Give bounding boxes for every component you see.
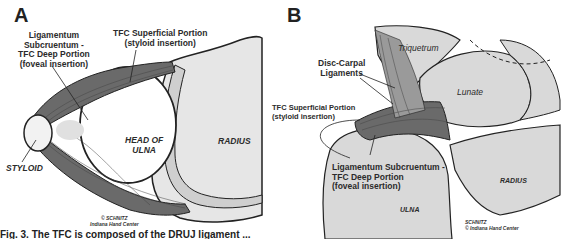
label-deep-portion-b: Ligamentum Subcruentum - TFC Deep Portio… [332,163,445,192]
label-lunate: Lunate [457,88,483,98]
credit-line: Indiana Hand Center [90,221,139,227]
label-line: (foveal insertion) [18,60,90,70]
panel-letter-b: B [287,4,301,27]
label-line: (styloid insertion) [272,113,355,122]
label-superficial-portion-b: TFC Superficial Portion (styloid inserti… [272,104,355,121]
label-superficial-portion-a: TFC Superficial Portion (styloid inserti… [113,29,207,48]
styloid-process [24,115,52,151]
credit-b: SCHNITZ © Indiana Hand Center [465,219,519,231]
label-radius-a: RADIUS [218,137,251,147]
label-line: ULNA [125,146,163,156]
label-disc-carpal: Disc-Carpal Ligaments [318,59,365,78]
label-radius-b: RADIUS [500,176,527,186]
label-line: (styloid insertion) [113,39,207,49]
label-deep-portion-a: Ligamentum Subcruentum - TFC Deep Portio… [18,31,90,69]
panel-letter-a: A [14,4,28,27]
label-ulna-b: ULNA [400,205,419,215]
radius-bone-b [450,125,560,215]
credit-line: © Indiana Hand Center [465,225,519,231]
label-styloid: STYLOID [6,164,43,174]
foveal-region [56,120,84,140]
label-head-of-ulna: HEAD OF ULNA [125,136,163,155]
credit-a: © SCHNITZ Indiana Hand Center [90,215,139,227]
label-line: (foveal insertion) [332,182,445,192]
label-line: Ligaments [318,69,365,79]
label-triquetrum: Triquetrum [398,44,438,54]
figure-caption: Fig. 3. The TFC is composed of the DRUJ … [0,229,251,239]
